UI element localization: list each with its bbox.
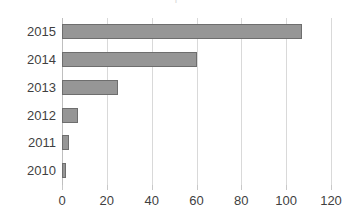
bar-series bbox=[62, 18, 331, 185]
x-axis-ticks bbox=[62, 185, 331, 190]
x-tick-label-20: 20 bbox=[100, 191, 114, 211]
bar-2010[interactable] bbox=[62, 163, 66, 178]
bar-2011[interactable] bbox=[62, 135, 69, 150]
bar-row bbox=[62, 157, 331, 185]
y-axis-label-2013: 2013 bbox=[0, 74, 56, 102]
y-axis-label-2014: 2014 bbox=[0, 46, 56, 74]
x-tick-80 bbox=[241, 185, 242, 190]
x-tick-0 bbox=[62, 185, 63, 190]
bar-2013[interactable] bbox=[62, 80, 118, 95]
y-axis-category-labels: 201520142013201220112010 bbox=[0, 18, 56, 185]
y-axis-label-2010: 2010 bbox=[0, 157, 56, 185]
x-tick-label-0: 0 bbox=[58, 191, 65, 211]
x-axis-tick-labels: 020406080100120 bbox=[62, 191, 331, 211]
bar-row bbox=[62, 46, 331, 74]
y-axis-label-2011: 2011 bbox=[0, 129, 56, 157]
bar-row bbox=[62, 102, 331, 130]
bar-2015[interactable] bbox=[62, 24, 302, 39]
y-axis-label-2012: 2012 bbox=[0, 102, 56, 130]
x-tick-100 bbox=[286, 185, 287, 190]
x-tick-label-40: 40 bbox=[144, 191, 158, 211]
chart-title-remnant: | bbox=[0, 0, 352, 13]
x-tick-120 bbox=[331, 185, 332, 190]
bar-row bbox=[62, 18, 331, 46]
gridline-120 bbox=[331, 18, 332, 185]
x-tick-label-120: 120 bbox=[320, 191, 342, 211]
x-tick-60 bbox=[197, 185, 198, 190]
x-tick-label-80: 80 bbox=[234, 191, 248, 211]
x-tick-label-60: 60 bbox=[189, 191, 203, 211]
bar-row bbox=[62, 129, 331, 157]
bar-chart: | 201520142013201220112010 0204060801001… bbox=[0, 0, 352, 224]
bar-2012[interactable] bbox=[62, 108, 78, 123]
x-tick-20 bbox=[107, 185, 108, 190]
bar-row bbox=[62, 74, 331, 102]
plot-area bbox=[62, 18, 331, 185]
y-axis-label-2015: 2015 bbox=[0, 18, 56, 46]
chart-title-remnant-text: | bbox=[175, 0, 178, 4]
bar-2014[interactable] bbox=[62, 52, 197, 67]
x-tick-40 bbox=[152, 185, 153, 190]
x-tick-label-100: 100 bbox=[275, 191, 297, 211]
